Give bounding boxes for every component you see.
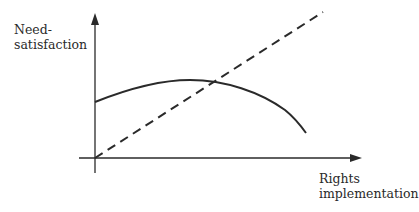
y-axis-label: Need- satisfaction (14, 22, 87, 52)
x-axis-label-line1: Rights (319, 171, 419, 186)
y-axis-label-line1: Need- (14, 22, 87, 37)
y-axis-arrow-icon (91, 13, 99, 25)
dashed-line (95, 12, 323, 158)
x-axis-label-line2: implementation (319, 186, 419, 201)
x-axis-label: Rights implementation (319, 171, 419, 201)
y-axis-label-line2: satisfaction (14, 37, 87, 52)
x-axis-arrow-icon (350, 154, 362, 162)
solid-curve (95, 80, 306, 133)
